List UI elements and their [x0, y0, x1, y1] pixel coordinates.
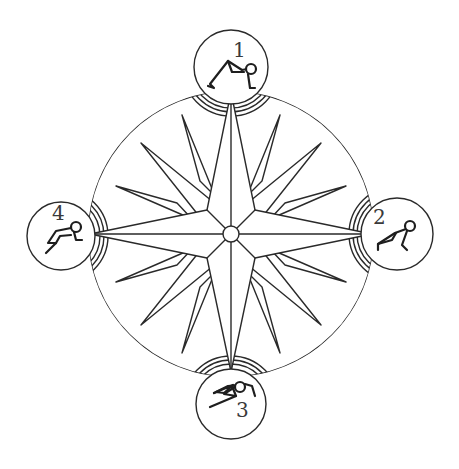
compass-rose-graphic: [0, 0, 459, 469]
medallion-2: [361, 198, 433, 270]
medallion-number-2: 2: [373, 207, 386, 227]
medallion-1: [194, 30, 268, 104]
medallion-number-4: 4: [52, 203, 65, 223]
medallion-3: [196, 369, 266, 439]
center-hub: [223, 226, 239, 242]
medallion-number-1: 1: [233, 40, 246, 60]
compass-diagram: 1 2 3 4: [0, 0, 459, 469]
medallion-number-3: 3: [236, 400, 249, 420]
